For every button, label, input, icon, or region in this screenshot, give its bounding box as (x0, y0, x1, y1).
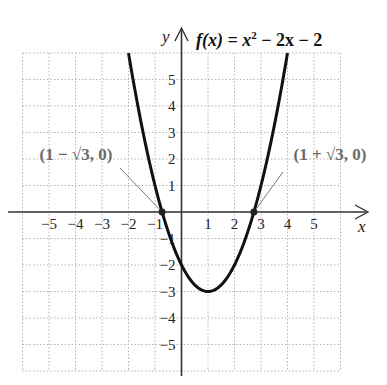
x-axis-label: x (357, 217, 366, 236)
y-tick-label: −2 (160, 257, 176, 273)
chart-title: f(x) = x2 − 2x − 2 (196, 29, 322, 51)
y-tick-label: −3 (160, 284, 176, 300)
title-rest: − 2x − 2 (257, 30, 323, 50)
x-tick-label: 5 (310, 216, 318, 232)
y-tick-label: −5 (160, 337, 176, 353)
parabola-chart: −5−4−3−2−112345−5−4−3−2−112345 (1 − √3, … (0, 0, 387, 385)
x-tick-label: −4 (68, 216, 84, 232)
y-tick-label: −4 (160, 310, 176, 326)
x-intercept-point (250, 209, 257, 216)
x-intercept-point (159, 209, 166, 216)
title-fx: f(x) = x (196, 30, 251, 51)
y-tick-label: 1 (168, 178, 176, 194)
x-tick-label: 4 (284, 216, 292, 232)
x-intercept-label: (1 + √3, 0) (294, 145, 367, 164)
annotations: (1 − √3, 0)(1 + √3, 0) (40, 145, 367, 216)
x-intercept-label: (1 − √3, 0) (40, 145, 113, 164)
x-tick-label: 3 (257, 216, 265, 232)
y-tick-label: 5 (168, 72, 176, 88)
y-tick-label: 2 (168, 151, 176, 167)
x-tick-label: −3 (94, 216, 110, 232)
x-tick-label: −5 (41, 216, 57, 232)
x-tick-label: 1 (204, 216, 212, 232)
y-tick-label: 4 (168, 98, 176, 114)
x-tick-label: −2 (121, 216, 137, 232)
y-tick-label: 3 (168, 125, 176, 141)
y-axis-label: y (160, 27, 170, 46)
x-tick-label: 2 (231, 216, 239, 232)
